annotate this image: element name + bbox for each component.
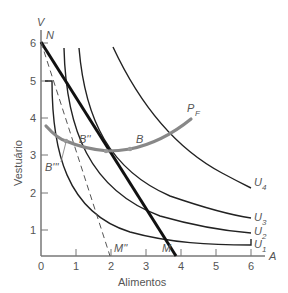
y-tick-label-1: 1 [30, 224, 36, 236]
label-B: B [136, 133, 143, 145]
x-tick-label-6: 6 [248, 260, 254, 272]
y-tick-label-3: 3 [30, 149, 36, 161]
label-PF-sub: F [195, 109, 201, 118]
label-U4: U 4 [254, 176, 267, 192]
y-tick-label-4: 4 [30, 112, 36, 124]
price-consumption-curve [46, 119, 191, 151]
label-U2-main: U [254, 225, 262, 237]
label-M: M [162, 242, 172, 254]
label-B3: B''' [45, 161, 60, 173]
point-B [128, 147, 132, 151]
y-axis-letter: V [37, 16, 46, 28]
x-tick-label-1: 1 [73, 260, 79, 272]
budget-line-NM [41, 42, 176, 256]
label-U3-main: U [254, 211, 262, 223]
label-B2: B'' [79, 133, 91, 145]
point-B2 [104, 149, 108, 153]
label-U4-main: U [254, 176, 262, 188]
x-tick-label-2: 2 [108, 260, 114, 272]
y-tick-label-2: 2 [30, 187, 36, 199]
x-axis-title: Alimentos [118, 276, 167, 288]
indifference-curve-u3 [79, 48, 251, 218]
consumer-choice-diagram: 6 5 4 3 2 1 0 1 2 3 4 5 6 V A Alimentos … [0, 0, 288, 293]
label-M2: M'' [114, 242, 128, 254]
x-tick-label-4: 4 [178, 260, 184, 272]
y-axis-title: Vestuário [12, 140, 24, 186]
label-U1-sub: 1 [262, 245, 266, 254]
x-axis-letter: A [268, 250, 276, 262]
indifference-curve-u4 [113, 47, 251, 188]
x-tick-label-3: 3 [143, 260, 149, 272]
x-tick-labels: 0 1 2 3 4 5 6 [38, 260, 254, 272]
label-U1-main: U [254, 238, 262, 250]
indifference-curve-u1 [45, 81, 251, 245]
label-N: N [46, 29, 54, 41]
y-tick-labels: 6 5 4 3 2 1 [30, 37, 36, 236]
x-tick-label-0: 0 [38, 260, 44, 272]
y-tick-label-6: 6 [30, 37, 36, 49]
label-U3-sub: 3 [262, 218, 267, 227]
label-U4-sub: 4 [262, 183, 267, 192]
y-tick-label-5: 5 [30, 75, 36, 87]
b3-leader-line [61, 142, 66, 162]
label-PF-main: P [187, 102, 195, 114]
x-tick-label-5: 5 [213, 260, 219, 272]
label-PF: P F [187, 102, 201, 118]
